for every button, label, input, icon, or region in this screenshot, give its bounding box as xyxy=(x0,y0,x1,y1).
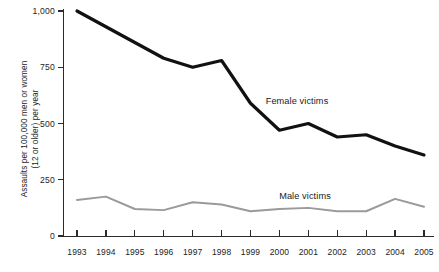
x-tick-mark xyxy=(423,230,424,236)
x-tick-label: 2005 xyxy=(414,247,433,257)
x-tick-mark xyxy=(192,230,193,236)
x-tick-mark xyxy=(366,230,367,236)
x-tick-mark xyxy=(250,230,251,236)
line-chart: Assaults per 100,000 men or women (12 or… xyxy=(0,0,439,272)
x-tick-label: 1999 xyxy=(241,247,260,257)
x-tick-mark xyxy=(394,230,395,236)
x-tick-mark xyxy=(163,230,164,236)
series-layer xyxy=(0,0,439,272)
x-tick-label: 2002 xyxy=(328,247,347,257)
x-tick-label: 2000 xyxy=(270,247,289,257)
x-tick-mark xyxy=(105,230,106,236)
x-tick-label: 1995 xyxy=(125,247,144,257)
x-tick-mark xyxy=(221,230,222,236)
x-tick-label: 1993 xyxy=(67,247,86,257)
x-tick-mark xyxy=(308,230,309,236)
series-label-male-victims: Male victims xyxy=(279,191,331,201)
x-tick-mark xyxy=(337,230,338,236)
series-line-female-victims xyxy=(77,11,424,155)
x-tick-label: 2003 xyxy=(357,247,376,257)
x-tick-mark xyxy=(134,230,135,236)
x-tick-label: 2004 xyxy=(385,247,404,257)
x-tick-mark xyxy=(279,230,280,236)
series-line-male-victims xyxy=(77,197,424,212)
x-tick-label: 1996 xyxy=(154,247,173,257)
x-tick-label: 2001 xyxy=(299,247,318,257)
x-tick-label: 1994 xyxy=(96,247,115,257)
x-tick-mark xyxy=(76,230,77,236)
series-label-female-victims: Female victims xyxy=(266,96,329,106)
x-tick-label: 1998 xyxy=(212,247,231,257)
x-tick-label: 1997 xyxy=(183,247,202,257)
